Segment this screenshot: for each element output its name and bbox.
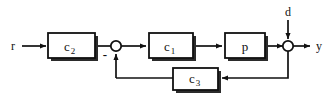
sum-output-circle [283, 41, 293, 51]
block-c3-subscript: 3 [196, 78, 201, 88]
block-p[interactable]: p [225, 33, 268, 61]
sum-error-sign: - [103, 47, 107, 62]
block-diagram-svg: c 2 c 1 p c 3 - [0, 0, 329, 101]
sum-output-junction[interactable] [283, 41, 293, 51]
block-c3-label: c [189, 71, 195, 86]
block-c1-label: c [164, 39, 170, 54]
block-p-label: p [242, 39, 249, 54]
sum-error-circle [111, 41, 121, 51]
signal-label-reference: r [11, 39, 15, 53]
signal-label-output: y [316, 39, 322, 53]
block-c1-subscript: 1 [171, 46, 176, 56]
block-diagram-canvas: c 2 c 1 p c 3 - [0, 0, 329, 101]
block-c2-subscript: 2 [71, 46, 76, 56]
block-c3[interactable]: c 3 [173, 68, 221, 93]
signal-label-disturbance: d [285, 5, 291, 19]
block-c2[interactable]: c 2 [48, 33, 98, 61]
sum-error-junction[interactable]: - [103, 41, 121, 62]
block-c1[interactable]: c 1 [149, 33, 196, 61]
block-c2-label: c [64, 39, 70, 54]
